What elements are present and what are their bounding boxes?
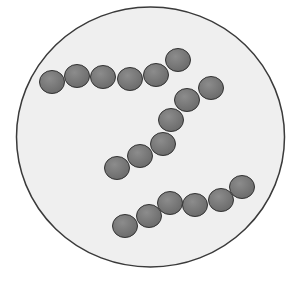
coccus-cell [137,205,162,228]
coccus-cell [151,133,176,156]
coccus-cell [113,215,138,238]
coccus-cell [183,194,208,217]
microscope-field [17,7,285,267]
coccus-cell [65,65,90,88]
coccus-cell [175,89,200,112]
coccus-cell [159,109,184,132]
coccus-cell [118,68,143,91]
coccus-cell [230,176,255,199]
coccus-cell [91,66,116,89]
coccus-cell [199,77,224,100]
coccus-cell [144,64,169,87]
coccus-cell [158,192,183,215]
coccus-cell [128,145,153,168]
coccus-cell [209,189,234,212]
microscope-field-illustration [0,0,288,283]
coccus-cell [105,157,130,180]
coccus-cell [166,49,191,72]
coccus-cell [40,71,65,94]
